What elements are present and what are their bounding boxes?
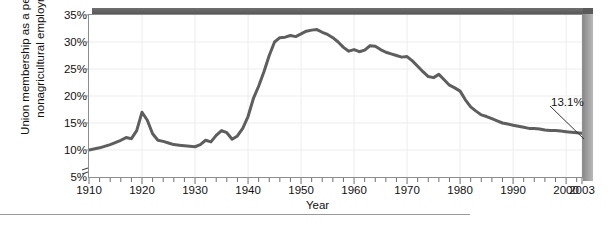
x-axis-tick-labels: 1910192019301940195019601970198019902000… xyxy=(0,184,615,200)
x-axis-tick-label: 1960 xyxy=(341,184,367,196)
x-axis-tick-label: 1930 xyxy=(182,184,208,196)
data-series-line xyxy=(89,30,582,150)
chart-canvas xyxy=(89,15,582,177)
plot-area xyxy=(88,14,583,178)
x-axis-title: Year xyxy=(0,199,615,211)
x-axis-tick-label: 1940 xyxy=(235,184,261,196)
y-axis-tick-marks xyxy=(82,0,90,226)
x-axis-tick-label: 1920 xyxy=(129,184,155,196)
x-axis-tick-label: 1990 xyxy=(500,184,526,196)
x-axis-tick-label: 1980 xyxy=(447,184,473,196)
x-axis-tick-label: 1950 xyxy=(288,184,314,196)
annotation-value-label: 13.1% xyxy=(551,96,584,108)
chart-figure: Union membership as a percent of nonagri… xyxy=(0,0,615,226)
x-axis-tick-label: 1970 xyxy=(394,184,420,196)
x-axis-tick-label: 2003 xyxy=(569,184,595,196)
footer-divider xyxy=(0,214,470,215)
plot-area-wrapper xyxy=(88,14,583,178)
annotation-leader-line xyxy=(540,104,600,162)
x-axis-title-text: Year xyxy=(306,199,329,211)
y-axis-title-line-1: Union membership as a percent of xyxy=(18,0,33,152)
